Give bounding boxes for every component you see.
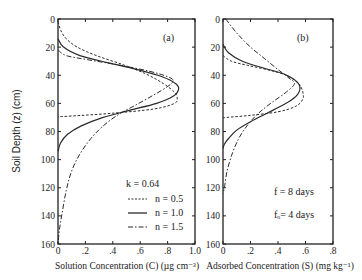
legend-entry-n15: n = 1.5 <box>155 221 183 232</box>
chart-canvas: 0204060801001201401600.2.4.6.81.0 020406… <box>0 0 362 280</box>
series-line-dash-dot <box>223 19 295 193</box>
y-tick-label: 160 <box>41 240 56 250</box>
y-tick-label: 100 <box>206 155 221 165</box>
x-tick-label: .8 <box>329 246 336 256</box>
figure: 0204060801001201401600.2.4.6.81.0 020406… <box>0 0 362 280</box>
x-tick-label: .2 <box>82 246 89 256</box>
y-tick-label: 160 <box>206 240 221 250</box>
y-tick-label: 120 <box>41 183 56 193</box>
y-tick-label: 140 <box>206 211 221 221</box>
y-tick-label: 0 <box>50 15 55 25</box>
y-axis-label: Soil Depth (z) (cm) <box>11 89 22 172</box>
x-tick-label: .2 <box>247 246 254 256</box>
x-tick-label: 0 <box>56 246 61 256</box>
y-tick-label: 20 <box>46 43 56 53</box>
legend: k = 0.64 n = 0.5 n = 1.0 n = 1.5 <box>126 178 183 232</box>
y-tick-label: 0 <box>215 15 220 25</box>
x-tick-label: 1.0 <box>189 246 201 256</box>
series-line-solid <box>58 39 179 152</box>
x-tick-label: .8 <box>164 246 171 256</box>
annotation-f0: fₒ= 4 days <box>274 209 314 220</box>
y-tick-label: 20 <box>211 43 221 53</box>
y-tick-label: 60 <box>46 99 56 109</box>
y-tick-label: 100 <box>41 155 56 165</box>
y-tick-label: 40 <box>46 71 56 81</box>
y-tick-label: 80 <box>46 127 56 137</box>
annotation-f: f = 8 days <box>274 186 314 197</box>
panel-b: 0204060801001201401600.2.4.6.8 <box>206 15 337 257</box>
y-tick-label: 40 <box>211 71 221 81</box>
x-tick-label: .6 <box>302 246 309 256</box>
legend-entry-n05: n = 0.5 <box>155 193 183 204</box>
series-line-solid <box>223 44 300 148</box>
legend-entry-n10: n = 1.0 <box>155 207 183 218</box>
x-axis-label-b: Adsorbed Concentration (S) (mg kg⁻¹) <box>206 261 354 272</box>
y-tick-label: 80 <box>211 127 221 137</box>
panel-label-b: (b) <box>297 32 309 44</box>
x-tick-label: .4 <box>274 246 281 256</box>
x-tick-label: .4 <box>109 246 116 256</box>
panel-label-a: (a) <box>163 32 174 44</box>
x-tick-label: 0 <box>221 246 226 256</box>
y-tick-label: 140 <box>41 211 56 221</box>
series-line-dashed <box>223 56 303 118</box>
panel-a: 0204060801001201401600.2.4.6.81.0 <box>41 15 201 257</box>
x-tick-label: .6 <box>137 246 144 256</box>
y-tick-label: 120 <box>206 183 221 193</box>
x-axis-label-a: Solution Concentration (C) (µg cm⁻³) <box>55 261 199 272</box>
legend-title: k = 0.64 <box>126 178 159 189</box>
y-tick-label: 60 <box>211 99 221 109</box>
